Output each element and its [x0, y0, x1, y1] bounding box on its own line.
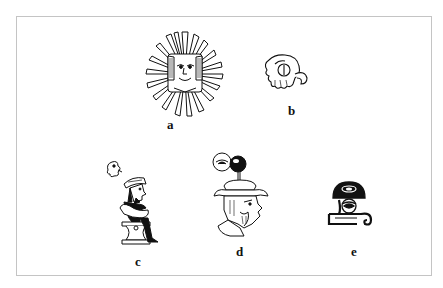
panel-label-c: c: [135, 255, 141, 268]
bearded-head-glyph: [210, 150, 272, 238]
bearded-head-icon: [210, 150, 272, 238]
sun-face-glyph: [144, 30, 226, 118]
cap-scroll-glyph: [327, 180, 375, 230]
cap-scroll-icon: [327, 180, 375, 230]
seated-figure-glyph: [104, 156, 160, 246]
sun-icon: [144, 30, 226, 118]
panel-label-a: a: [167, 118, 174, 131]
hand-shell-icon: [261, 52, 311, 92]
hand-glyph: [261, 52, 311, 92]
panel-label-e: e: [351, 245, 357, 258]
panel-label-d: d: [236, 245, 243, 258]
seated-person-icon: [104, 156, 160, 246]
panel-label-b: b: [288, 104, 295, 117]
